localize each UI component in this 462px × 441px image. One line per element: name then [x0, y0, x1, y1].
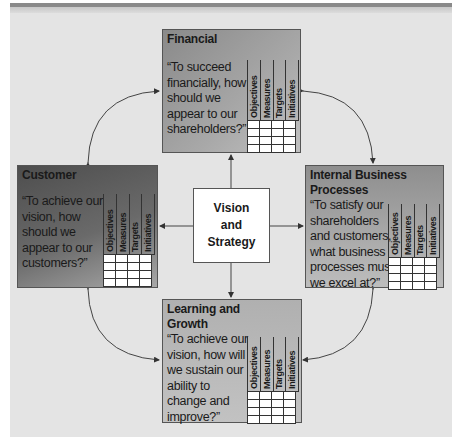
quote-line: financially, how	[167, 76, 246, 92]
quote-line: what business	[310, 245, 393, 261]
quote-line: shareholders?”	[167, 122, 246, 138]
learning-scorecard-grid: Objectives Measures Targets Initiatives	[247, 337, 299, 424]
header-targets: Targets	[274, 88, 284, 118]
quote-line: processes must	[310, 260, 393, 276]
header-objectives: Objectives	[105, 209, 115, 252]
learning-question: “To achieve our vision, how will we sust…	[167, 332, 248, 425]
financial-box: Financial “To succeed financially, how s…	[162, 29, 301, 153]
vision-label-line: and	[207, 217, 255, 234]
financial-question: “To succeed financially, how should we a…	[167, 60, 246, 138]
vision-label-line: Vision	[207, 200, 255, 217]
quote-line: “To succeed	[167, 60, 246, 76]
quote-line: vision, how will	[167, 348, 248, 364]
header-initiatives: Initiatives	[428, 217, 438, 255]
header-initiatives: Initiatives	[287, 351, 297, 389]
title-line: Learning and	[167, 302, 240, 317]
header-measures: Measures	[262, 350, 272, 389]
header-measures: Measures	[403, 216, 413, 255]
quote-line: appear to our	[167, 107, 246, 123]
grid-cells	[247, 391, 299, 424]
quote-line: improve?”	[167, 410, 248, 426]
vision-and-strategy-box: Vision and Strategy	[193, 188, 270, 263]
quote-line: vision, how	[22, 210, 103, 226]
internal-business-processes-box: Internal Business Processes “To satisfy …	[305, 165, 444, 288]
header-measures: Measures	[262, 79, 272, 118]
title-line: Growth	[167, 317, 240, 332]
quote-line: and customers,	[310, 229, 393, 245]
title-line: Processes	[310, 183, 407, 198]
customer-title: Customer	[22, 168, 76, 183]
header-objectives: Objectives	[249, 75, 259, 118]
quote-line: should we	[167, 91, 246, 107]
customer-question: “To achieve our vision, how should we ap…	[22, 194, 103, 272]
header-objectives: Objectives	[390, 212, 400, 255]
title-line: Internal Business	[310, 168, 407, 183]
header-targets: Targets	[415, 225, 425, 255]
quote-line: we excel at?”	[310, 276, 393, 292]
header-targets: Targets	[274, 359, 284, 389]
customer-scorecard-grid: Objectives Measures Targets Initiatives	[103, 194, 155, 287]
financial-scorecard-grid: Objectives Measures Targets Initiatives	[247, 60, 299, 153]
internal-scorecard-grid: Objectives Measures Targets Initiatives	[388, 204, 440, 290]
vision-label-line: Strategy	[207, 234, 255, 251]
quote-line: we sustain our	[167, 363, 248, 379]
financial-title: Financial	[167, 32, 217, 47]
quote-line: change and	[167, 394, 248, 410]
learning-title: Learning and Growth	[167, 302, 240, 332]
quote-line: “To satisfy our	[310, 198, 393, 214]
header-targets: Targets	[130, 222, 140, 252]
internal-question: “To satisfy our shareholders and custome…	[310, 198, 393, 291]
quote-line: customers?”	[22, 256, 103, 272]
quote-line: shareholders	[310, 214, 393, 230]
quote-line: ability to	[167, 379, 248, 395]
quote-line: “To achieve our	[22, 194, 103, 210]
header-initiatives: Initiatives	[287, 80, 297, 118]
quote-line: “To achieve our	[167, 332, 248, 348]
quote-line: appear to our	[22, 241, 103, 257]
internal-title: Internal Business Processes	[310, 168, 407, 198]
quote-line: should we	[22, 225, 103, 241]
header-objectives: Objectives	[249, 346, 259, 389]
header-measures: Measures	[118, 213, 128, 252]
learning-and-growth-box: Learning and Growth “To achieve our visi…	[162, 299, 302, 423]
customer-box: Customer “To achieve our vision, how sho…	[17, 165, 158, 288]
grid-cells	[103, 254, 155, 287]
header-initiatives: Initiatives	[143, 214, 153, 252]
grid-cells	[247, 120, 299, 153]
grid-cells	[388, 257, 440, 290]
